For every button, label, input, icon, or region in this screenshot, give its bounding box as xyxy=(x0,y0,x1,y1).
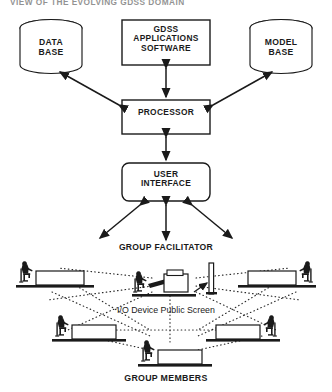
data-base-label: DATA BASE xyxy=(18,38,84,57)
model-base-label: MODEL BASE xyxy=(248,38,314,57)
public-screen-panel xyxy=(194,263,217,294)
edge-processor-modelbase xyxy=(213,72,272,105)
workstation-mid-right xyxy=(206,315,280,341)
workstation-mid-left xyxy=(52,315,126,341)
io-device-public-screen-caption: I/O Device Public Screen xyxy=(76,306,256,316)
user-interface-label: USER INTERFACE xyxy=(122,170,210,189)
group-members-caption: GROUP MEMBERS xyxy=(96,374,236,384)
workstation-upper-right xyxy=(238,261,316,287)
gdss-applications-software-label: GDSS APPLICATIONS SOFTWARE xyxy=(122,25,210,53)
processor-label: PROCESSOR xyxy=(122,108,210,117)
workstation-facilitator xyxy=(132,270,196,297)
diagram-canvas: VIEW OF THE EVOLVING GDSS DOMAIN DATA BA… xyxy=(0,0,332,392)
group-facilitator-caption: GROUP FACILITATOR xyxy=(86,243,246,253)
edge-ui-facilitator-left xyxy=(100,205,140,238)
workstation-upper-left xyxy=(16,261,94,287)
edge-processor-database xyxy=(60,72,119,105)
edge-ui-facilitator-right xyxy=(192,205,232,238)
page-title: VIEW OF THE EVOLVING GDSS DOMAIN xyxy=(10,0,185,7)
workstation-bottom xyxy=(138,340,212,366)
diagram-svg xyxy=(0,0,332,392)
